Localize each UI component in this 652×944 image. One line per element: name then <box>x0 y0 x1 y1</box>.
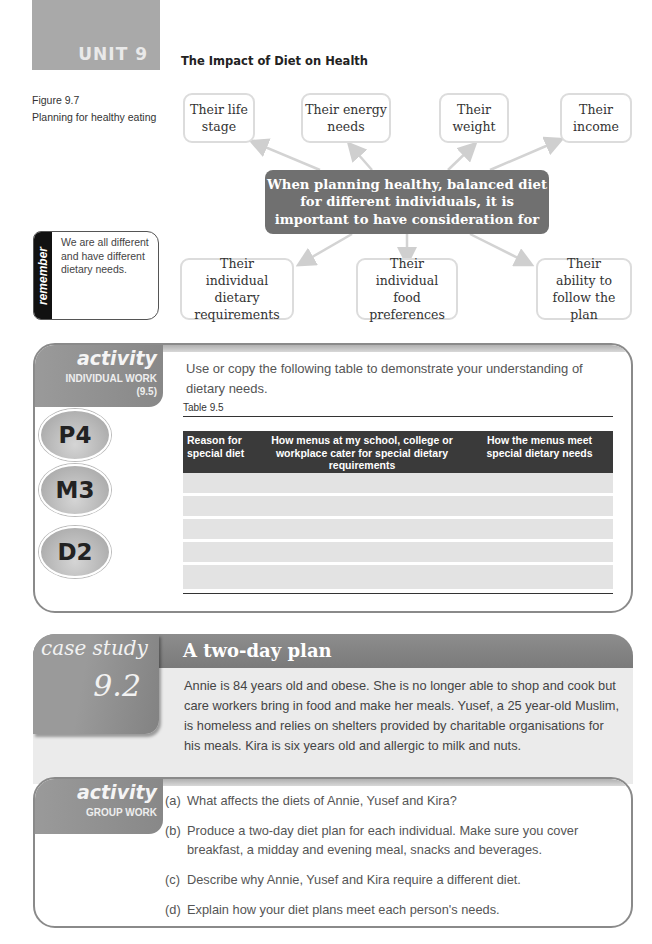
table-caption: Table 9.5 <box>183 402 613 417</box>
question-label: (d) <box>165 900 187 919</box>
activity-tab: activity INDIVIDUAL WORK (9.5) <box>35 345 163 407</box>
activity-group-panel: activity GROUP WORK (a) What affects the… <box>33 777 633 928</box>
table-row[interactable] <box>183 542 613 562</box>
case-study-body: Annie is 84 years old and obese. She is … <box>184 676 620 756</box>
case-study-title: A two-day plan <box>183 640 332 661</box>
question-text: Describe why Annie, Yusef and Kira requi… <box>187 870 521 889</box>
question-label: (a) <box>165 791 187 810</box>
question-item: (c) Describe why Annie, Yusef and Kira r… <box>165 870 610 889</box>
remember-box: remember We are all different and have d… <box>33 231 159 320</box>
activity-tab: activity GROUP WORK <box>35 779 163 834</box>
diet-table: Reason for special diet How menus at my … <box>183 431 613 594</box>
table-bottom-rule <box>183 593 613 594</box>
question-label: (c) <box>165 870 187 889</box>
activity-work-type: GROUP WORK <box>86 806 157 819</box>
question-item: (a) What affects the diets of Annie, Yus… <box>165 791 610 810</box>
case-study-tab-title: case study <box>41 636 148 660</box>
activity-ref: (9.5) <box>66 385 157 398</box>
badge-d2: D2 <box>39 526 111 578</box>
remember-label-bar: remember <box>34 232 52 319</box>
badge-m3: M3 <box>39 464 111 516</box>
node-income: Their income <box>560 93 632 143</box>
table-header-menus-meet: How the menus meet special dietary needs <box>462 434 609 469</box>
activity-individual-panel: activity INDIVIDUAL WORK (9.5) P4 M3 D2 … <box>33 343 633 613</box>
table-header-reason: Reason for special diet <box>187 434 262 469</box>
question-text: What affects the diets of Annie, Yusef a… <box>187 791 457 810</box>
activity-title: activity <box>77 781 157 803</box>
table-row[interactable] <box>183 519 613 539</box>
case-study-number: 9.2 <box>93 668 141 703</box>
question-list: (a) What affects the diets of Annie, Yus… <box>165 791 610 928</box>
case-study-tab: case study 9.2 <box>33 634 159 734</box>
table-header-row: Reason for special diet How menus at my … <box>183 431 613 473</box>
center-node: When planning healthy, balanced diet for… <box>265 170 549 234</box>
question-text: Produce a two-day diet plan for each ind… <box>187 821 610 859</box>
node-food-preferences: Their individual food preferences <box>356 258 458 320</box>
node-energy-needs: Their energy needs <box>301 93 391 143</box>
table-row[interactable] <box>183 496 613 516</box>
case-study-panel: A two-day plan case study 9.2 Annie is 8… <box>33 634 633 784</box>
badge-p4: P4 <box>39 409 111 461</box>
activity-title: activity <box>77 347 157 369</box>
question-label: (b) <box>165 821 187 859</box>
remember-text: We are all different and have different … <box>61 236 157 277</box>
table-row[interactable] <box>183 473 613 493</box>
question-item: (b) Produce a two-day diet plan for each… <box>165 821 610 859</box>
node-weight: Their weight <box>439 93 509 143</box>
node-life-stage: Their life stage <box>183 93 255 143</box>
question-text: Explain how your diet plans meet each pe… <box>187 900 500 919</box>
node-dietary-requirements: Their individual dietary requirements <box>180 258 294 320</box>
activity-work-type: INDIVIDUAL WORK <box>66 372 157 385</box>
question-item: (d) Explain how your diet plans meet eac… <box>165 900 610 919</box>
table-row[interactable] <box>183 565 613 589</box>
activity-subtitle: INDIVIDUAL WORK (9.5) <box>66 372 157 398</box>
activity-intro: Use or copy the following table to demon… <box>186 359 616 399</box>
remember-label: remember <box>36 246 50 304</box>
table-header-menus-cater: How menus at my school, college or workp… <box>262 434 462 469</box>
node-ability-follow-plan: Their ability to follow the plan <box>536 258 632 320</box>
